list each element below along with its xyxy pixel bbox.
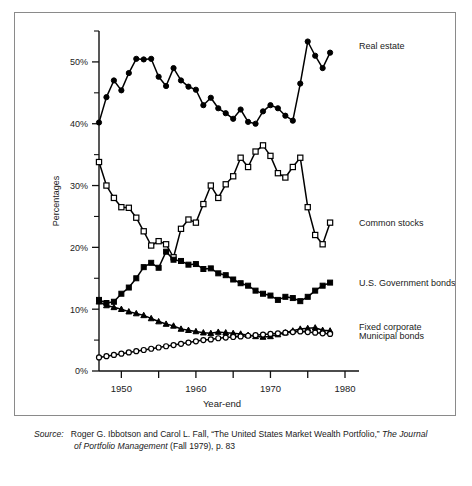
data-point — [305, 39, 310, 44]
data-point — [96, 120, 101, 125]
data-point — [163, 83, 168, 88]
data-point — [141, 57, 146, 62]
data-point — [126, 205, 131, 210]
data-point — [208, 95, 213, 100]
source-label: Source: — [34, 429, 64, 439]
data-point — [134, 215, 139, 220]
data-point — [238, 281, 243, 286]
data-point — [328, 331, 333, 336]
data-point — [97, 355, 102, 360]
data-point — [223, 182, 228, 187]
data-point — [253, 149, 258, 154]
data-point — [119, 351, 124, 356]
data-point — [104, 354, 109, 359]
data-point — [290, 296, 295, 301]
data-point — [223, 273, 228, 278]
data-point — [193, 87, 198, 92]
data-point — [149, 346, 154, 351]
data-point — [260, 143, 265, 148]
data-point — [268, 331, 273, 336]
series-fixed-corporate — [96, 299, 333, 340]
data-point — [141, 265, 146, 270]
data-point — [328, 280, 333, 285]
data-point — [156, 345, 161, 350]
data-point — [305, 330, 310, 335]
data-point — [283, 113, 288, 118]
source-text-b: (Fall 1979), p. 83 — [168, 441, 235, 451]
source-journal-name: The Journal — [382, 429, 427, 439]
data-point — [208, 266, 213, 271]
data-point — [298, 155, 303, 160]
data-point — [208, 337, 213, 342]
data-point — [238, 107, 243, 112]
data-point — [320, 65, 325, 70]
data-point — [164, 249, 169, 254]
data-point — [253, 121, 258, 126]
data-point — [149, 243, 154, 248]
data-point — [313, 232, 318, 237]
series-line — [99, 145, 330, 257]
data-point — [96, 159, 101, 164]
y-tick-label: 30% — [70, 181, 88, 191]
x-tick-label: 1980 — [334, 383, 355, 394]
series-u-s-government-bonds — [97, 249, 333, 305]
data-point — [193, 339, 198, 344]
source-caption: Source: Roger G. Ibbotson and Carol L. F… — [34, 428, 442, 453]
data-point — [134, 56, 139, 61]
data-point — [320, 283, 325, 288]
line-chart: 0%10%20%30%40%50%1950196019701980Year-en… — [15, 13, 455, 415]
data-point — [111, 78, 116, 83]
data-point — [216, 106, 221, 111]
x-tick-label: 1970 — [260, 383, 281, 394]
data-point — [320, 242, 325, 247]
series-municipal-bonds — [97, 329, 333, 360]
data-point — [275, 297, 280, 302]
data-point — [260, 109, 265, 114]
data-point — [298, 299, 303, 304]
data-point — [290, 330, 295, 335]
data-point — [119, 88, 124, 93]
x-tick-label: 1950 — [111, 383, 132, 394]
data-point — [261, 332, 266, 337]
y-tick-label: 50% — [70, 57, 88, 67]
legend-municipal-bonds: Municipal bonds — [359, 331, 425, 341]
data-point — [156, 74, 161, 79]
x-tick-label: 1960 — [185, 383, 206, 394]
data-point — [201, 103, 206, 108]
data-point — [231, 277, 236, 282]
data-point — [253, 288, 258, 293]
data-point — [164, 344, 169, 349]
y-tick-label: 20% — [70, 243, 88, 253]
data-point — [283, 294, 288, 299]
data-point — [320, 331, 325, 336]
legend-real-estate: Real estate — [359, 41, 405, 51]
data-point — [245, 164, 250, 169]
data-point — [126, 350, 131, 355]
legend-government-bonds: U.S. Government bonds — [359, 278, 455, 288]
data-point — [171, 257, 176, 262]
data-point — [261, 291, 266, 296]
data-point — [179, 258, 184, 263]
data-point — [111, 352, 116, 357]
y-tick-label: 40% — [70, 119, 88, 129]
source-journal-name-2: of Portfolio Management — [74, 441, 168, 451]
data-point — [245, 119, 250, 124]
data-point — [149, 56, 154, 61]
data-point — [186, 340, 191, 345]
data-point — [231, 335, 236, 340]
data-point — [134, 276, 139, 281]
series-real-estate — [96, 39, 332, 126]
data-point — [141, 229, 146, 234]
data-point — [231, 116, 236, 121]
series-line — [99, 331, 330, 357]
data-point — [283, 175, 288, 180]
data-point — [275, 171, 280, 176]
data-point — [268, 153, 273, 158]
data-point — [290, 164, 295, 169]
data-point — [193, 262, 198, 267]
y-axis-title: Percentages — [51, 175, 61, 226]
data-point — [171, 65, 176, 70]
data-point — [111, 195, 116, 200]
series-line — [99, 42, 330, 124]
data-point — [156, 265, 161, 270]
